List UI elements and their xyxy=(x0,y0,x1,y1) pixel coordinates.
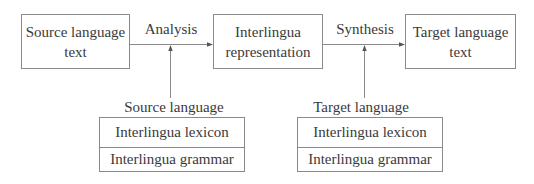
analysis-label: Analysis xyxy=(141,20,201,38)
source-interlingua-lexicon: Interlingua lexicon xyxy=(100,118,244,148)
source-language-resources: Interlingua lexicon Interlingua grammar xyxy=(99,117,245,172)
source-language-resources-label: Source language xyxy=(104,98,244,116)
source-language-text-box: Source language text xyxy=(21,14,130,69)
synthesis-label: Synthesis xyxy=(334,20,396,38)
target-interlingua-grammar: Interlingua grammar xyxy=(298,148,442,171)
source-interlingua-grammar: Interlingua grammar xyxy=(100,148,244,171)
interlingua-line2: representation xyxy=(226,42,311,62)
interlingua-representation-box: Interlingua representation xyxy=(213,14,323,69)
interlingua-line1: Interlingua xyxy=(226,22,311,42)
source-text-line2: text xyxy=(26,42,126,62)
target-text-line1: Target language xyxy=(413,22,509,42)
target-language-resources-label: Target language xyxy=(286,98,436,116)
target-text-line2: text xyxy=(413,42,509,62)
target-interlingua-lexicon: Interlingua lexicon xyxy=(298,118,442,148)
target-language-resources: Interlingua lexicon Interlingua grammar xyxy=(297,117,443,172)
target-language-text-box: Target language text xyxy=(405,14,516,69)
source-text-line1: Source language xyxy=(26,22,126,42)
